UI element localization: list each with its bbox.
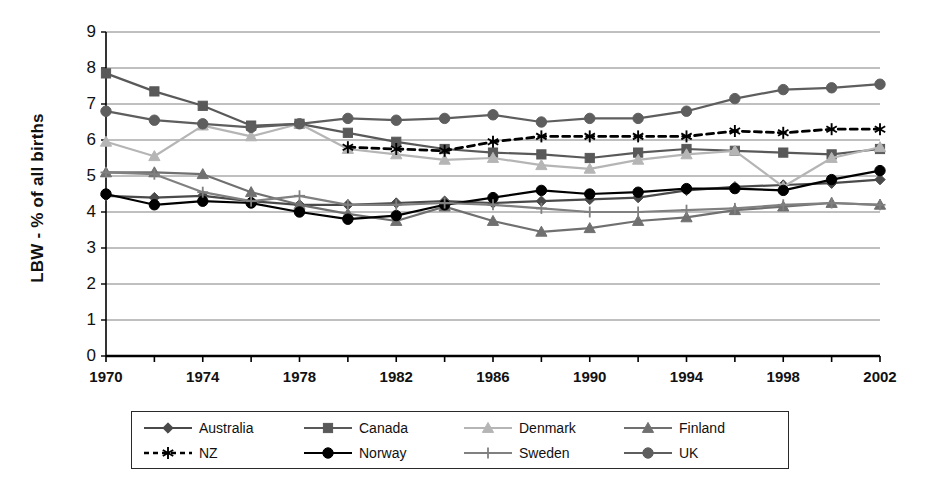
series-uk <box>101 79 885 133</box>
circle-marker-icon <box>622 444 674 462</box>
circle-marker-icon <box>302 444 354 462</box>
plus-marker-icon <box>462 444 514 462</box>
legend-item-norway[interactable]: Norway <box>302 440 462 465</box>
legend-label: Denmark <box>519 420 576 436</box>
legend-item-canada[interactable]: Canada <box>302 415 462 440</box>
triangle-marker-icon <box>622 419 674 437</box>
legend-label: NZ <box>199 445 218 461</box>
legend-item-nz[interactable]: NZ <box>142 440 302 465</box>
legend-item-denmark[interactable]: Denmark <box>462 415 622 440</box>
square-marker-icon <box>302 419 354 437</box>
legend-label: Canada <box>359 420 408 436</box>
legend-label: UK <box>679 445 698 461</box>
legend-item-sweden[interactable]: Sweden <box>462 440 622 465</box>
plot-area <box>0 0 930 400</box>
legend-item-finland[interactable]: Finland <box>622 415 782 440</box>
legend-label: Sweden <box>519 445 570 461</box>
legend-item-uk[interactable]: UK <box>622 440 782 465</box>
asterisk-marker-icon <box>142 444 194 462</box>
chart-container: LBW - % of all births 0123456789 1970197… <box>0 0 930 489</box>
series-line <box>106 84 880 127</box>
legend-label: Finland <box>679 420 725 436</box>
legend-item-australia[interactable]: Australia <box>142 415 302 440</box>
legend-label: Australia <box>199 420 253 436</box>
triangle-marker-icon <box>462 419 514 437</box>
diamond-marker-icon <box>142 419 194 437</box>
chart-legend: AustraliaCanadaDenmarkFinlandNZNorwaySwe… <box>131 411 789 469</box>
legend-label: Norway <box>359 445 406 461</box>
